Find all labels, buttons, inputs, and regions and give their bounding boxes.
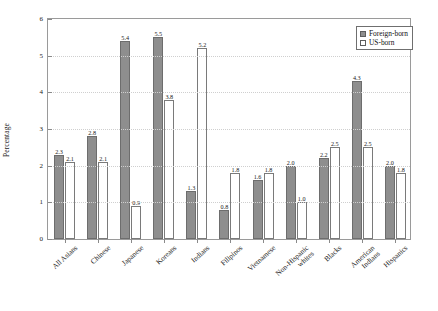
x-axis-tick xyxy=(230,239,231,243)
x-axis-tick xyxy=(296,239,297,243)
y-axis-tick: 1 xyxy=(40,198,49,206)
x-axis-category-label: Chinese xyxy=(89,244,112,266)
bar-value-label: 1.8 xyxy=(397,166,405,173)
bar: 2.1 xyxy=(65,162,75,239)
bar: 1.0 xyxy=(297,202,307,239)
bar-value-label: 2.5 xyxy=(331,140,339,147)
bar: 4.3 xyxy=(352,81,362,239)
bar-value-label: 1.8 xyxy=(232,166,240,173)
x-axis-category-label: Non-Hispanicwhites xyxy=(274,244,316,284)
bar: 1.3 xyxy=(186,191,196,239)
bar: 1.6 xyxy=(253,180,263,239)
grid-line xyxy=(48,166,410,167)
legend-label-foreign-born: Foreign-born xyxy=(369,29,408,38)
bar-value-label: 2.0 xyxy=(386,159,394,166)
legend-swatch-foreign-born xyxy=(360,31,366,37)
bar-value-label: 3.8 xyxy=(165,93,173,100)
grid-line xyxy=(48,56,410,57)
y-axis-title: Percentage xyxy=(2,123,11,157)
x-axis-category-label: Hispanics xyxy=(383,244,410,270)
bar-chart: Percentage 2.32.12.82.15.40.95.53.81.35.… xyxy=(0,0,438,311)
legend-swatch-us-born xyxy=(360,40,366,46)
x-axis-tick xyxy=(98,239,99,243)
bar: 5.2 xyxy=(197,48,207,239)
bar-value-label: 5.4 xyxy=(121,34,129,41)
bar: 0.8 xyxy=(219,210,229,239)
x-axis-tick xyxy=(65,239,66,243)
y-axis-tick: 0 xyxy=(40,235,49,243)
bar-value-label: 1.0 xyxy=(298,195,306,202)
x-axis-category-label: Blacks xyxy=(323,244,343,264)
bar: 2.3 xyxy=(54,155,64,239)
x-axis-category-label: Koreans xyxy=(155,244,179,267)
bar-value-label: 4.3 xyxy=(353,74,361,81)
y-axis-tick: 5 xyxy=(40,52,49,60)
grid-line xyxy=(48,129,410,130)
x-axis-tick xyxy=(329,239,330,243)
grid-line xyxy=(48,92,410,93)
bar: 2.5 xyxy=(330,147,340,239)
y-axis-tick: 2 xyxy=(40,162,49,170)
bar-value-label: 1.8 xyxy=(265,166,273,173)
x-axis-category-label: Vietnamese xyxy=(246,244,277,273)
bar-value-label: 2.1 xyxy=(66,155,74,162)
bar: 1.8 xyxy=(264,173,274,239)
bar-value-label: 5.2 xyxy=(199,41,207,48)
x-axis-category-label: Indians xyxy=(190,244,212,265)
chart-legend: Foreign-born US-born xyxy=(356,26,413,50)
x-axis-category-label: All Asians xyxy=(50,244,79,271)
x-axis-labels: All AsiansChineseJapaneseKoreansIndiansF… xyxy=(47,244,411,310)
bar: 2.5 xyxy=(363,147,373,239)
bar: 5.5 xyxy=(153,37,163,239)
x-axis-tick xyxy=(395,239,396,243)
bar: 1.8 xyxy=(230,173,240,239)
legend-label-us-born: US-born xyxy=(369,38,394,47)
bar-value-label: 2.5 xyxy=(364,140,372,147)
bar-value-label: 1.6 xyxy=(254,173,262,180)
bar-value-label: 0.8 xyxy=(221,203,229,210)
bar-value-label: 1.3 xyxy=(188,184,196,191)
x-axis-category-label: Japanese xyxy=(120,244,145,268)
bar: 5.4 xyxy=(120,41,130,239)
bar: 0.9 xyxy=(131,206,141,239)
x-axis-category-label: Filipinos xyxy=(219,244,244,268)
plot-area: 2.32.12.82.15.40.95.53.81.35.20.81.81.61… xyxy=(47,18,411,240)
y-axis-tick: 3 xyxy=(40,125,49,133)
bar-value-label: 5.5 xyxy=(154,30,162,37)
bar-value-label: 2.1 xyxy=(99,155,107,162)
x-axis-tick xyxy=(131,239,132,243)
x-axis-tick xyxy=(164,239,165,243)
bar: 2.8 xyxy=(87,136,97,239)
bar-value-label: 2.2 xyxy=(320,151,328,158)
grid-line xyxy=(48,202,410,203)
bar-value-label: 2.8 xyxy=(88,129,96,136)
x-axis-tick xyxy=(362,239,363,243)
x-axis-tick xyxy=(263,239,264,243)
x-axis-category-label: AmericanIndians xyxy=(350,244,383,276)
bar: 1.8 xyxy=(396,173,406,239)
bar: 2.2 xyxy=(319,158,329,239)
legend-item-us-born: US-born xyxy=(360,38,408,47)
x-axis-tick xyxy=(197,239,198,243)
y-axis-tick: 4 xyxy=(40,88,49,96)
bar: 2.1 xyxy=(98,162,108,239)
y-axis-tick: 6 xyxy=(40,15,49,23)
bar: 3.8 xyxy=(164,100,174,239)
legend-item-foreign-born: Foreign-born xyxy=(360,29,408,38)
bar-value-label: 2.3 xyxy=(55,148,63,155)
bar-value-label: 2.0 xyxy=(287,159,295,166)
